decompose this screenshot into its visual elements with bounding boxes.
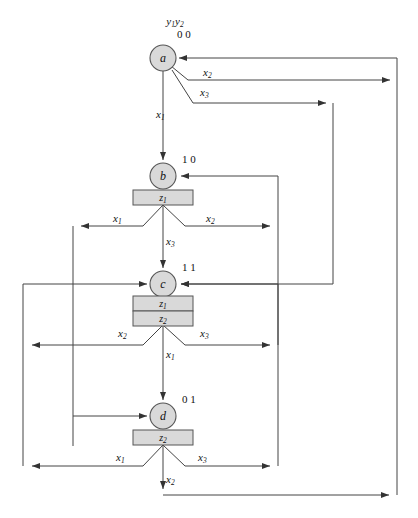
state-b-output-z1: z1	[133, 190, 193, 205]
edge-d-x1-to-c	[32, 445, 163, 466]
edge-label-b-x2: x2	[205, 212, 215, 226]
state-node-b[interactable]: b	[150, 163, 176, 189]
state-a-code: 0 0	[177, 28, 191, 40]
edge-label-c-x3: x3	[199, 327, 209, 341]
state-node-d[interactable]: d	[150, 403, 176, 429]
edge-label-c-x2: x2	[117, 327, 127, 341]
state-d-label: d	[160, 409, 167, 423]
edge-b-x2-to-b	[163, 205, 270, 226]
edge-c-x2-to-a	[32, 325, 163, 345]
edge-a-x3-to-c	[172, 70, 326, 103]
edge-label-c-x1: x1	[165, 348, 175, 362]
state-c-code: 1 1	[182, 261, 196, 273]
state-c-label: c	[160, 277, 166, 291]
edge-label-d-x3: x3	[197, 451, 207, 465]
edge-label-b-x1: x1	[112, 212, 122, 226]
edge-a-x3-rail	[181, 103, 333, 284]
state-vars-header: y1y2	[165, 15, 184, 29]
edge-b-x2-rail	[181, 176, 278, 226]
state-node-a[interactable]: a	[150, 45, 176, 71]
edge-label-d-x1: x1	[115, 451, 125, 465]
edge-label-a-x2: x2	[202, 66, 212, 80]
edge-c-x2-rail	[23, 284, 147, 345]
edge-label-b-x3: x3	[165, 235, 175, 249]
edge-label-d-x2: x2	[165, 473, 175, 487]
edge-c-x3-rail	[181, 284, 278, 345]
edge-b-x1-to-a	[81, 205, 163, 226]
state-a-label: a	[160, 51, 166, 65]
state-node-c[interactable]: c	[150, 271, 176, 297]
state-d-output-z2: z2	[133, 430, 193, 445]
state-diagram-canvas: y1y2 a 0 0 b 1 0 z1 c 1 1 z1 z2 d	[0, 0, 418, 518]
state-b-label: b	[160, 169, 166, 183]
edge-label-a-x3: x3	[199, 86, 209, 100]
state-c-output-z2: z2	[133, 311, 193, 326]
wire-layer	[23, 58, 397, 495]
state-d-code: 0 1	[182, 393, 196, 405]
edge-d-x3-to-b	[163, 445, 270, 466]
state-c-output-z1: z1	[133, 296, 193, 311]
state-b-code: 1 0	[182, 153, 196, 165]
edge-c-x3-to-c	[163, 325, 270, 345]
edge-a-x2-rail	[179, 58, 397, 80]
state-diagram: y1y2 a 0 0 b 1 0 z1 c 1 1 z1 z2 d	[0, 0, 418, 518]
